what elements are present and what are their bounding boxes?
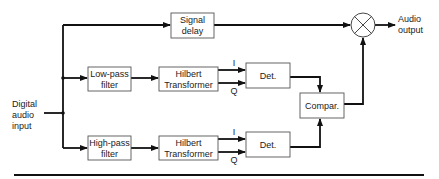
low-pass-label-line1: Low-pass xyxy=(90,69,129,79)
port-i-top: I xyxy=(233,58,236,68)
wire-det-top-to-compar xyxy=(290,77,320,92)
hilbert-top-label-line1: Hilbert xyxy=(175,69,202,79)
hilbert-transformer-bottom-block: Hilbert Transformer xyxy=(159,136,218,160)
det-top-label: Det. xyxy=(260,71,277,81)
input-label-line3: input xyxy=(12,121,32,131)
det-bottom-label: Det. xyxy=(260,140,277,150)
low-pass-label-line2: filter xyxy=(101,80,118,90)
output-label: Audio output xyxy=(398,14,424,35)
det-bottom-block: Det. xyxy=(246,132,290,157)
output-label-line1: Audio xyxy=(398,14,421,24)
signal-delay-block: Signal delay xyxy=(171,13,214,38)
input-label-line2: audio xyxy=(12,110,34,120)
signal-delay-label-line1: Signal xyxy=(180,15,205,25)
hilbert-top-label-line2: Transformer xyxy=(164,80,213,90)
hilbert-bottom-label-line1: Hilbert xyxy=(175,138,202,148)
high-pass-label-line2: filter xyxy=(101,149,118,159)
input-label-line1: Digital xyxy=(12,99,37,109)
wire-compar-to-multiplier xyxy=(344,38,363,104)
hilbert-bottom-label-line2: Transformer xyxy=(164,149,213,159)
det-top-block: Det. xyxy=(246,63,290,88)
output-label-line2: output xyxy=(398,25,424,35)
port-q-top: Q xyxy=(230,86,237,96)
low-pass-filter-block: Low-pass filter xyxy=(88,67,131,91)
comparator-block: Compar. xyxy=(300,93,344,118)
high-pass-filter-block: High-pass filter xyxy=(88,136,131,160)
port-q-bottom: Q xyxy=(230,155,237,165)
multiplier-icon xyxy=(351,13,375,37)
hilbert-transformer-top-block: Hilbert Transformer xyxy=(159,67,218,91)
input-label: Digital audio input xyxy=(12,99,37,131)
block-diagram: Signal delay Low-pass filter Hilbert Tra… xyxy=(0,0,439,179)
high-pass-label-line1: High-pass xyxy=(89,138,130,148)
port-i-bottom: I xyxy=(233,127,236,137)
comparator-label: Compar. xyxy=(305,101,339,111)
input-wire xyxy=(44,25,65,148)
wire-det-bottom-to-compar xyxy=(290,119,320,147)
signal-delay-label-line2: delay xyxy=(182,26,204,36)
